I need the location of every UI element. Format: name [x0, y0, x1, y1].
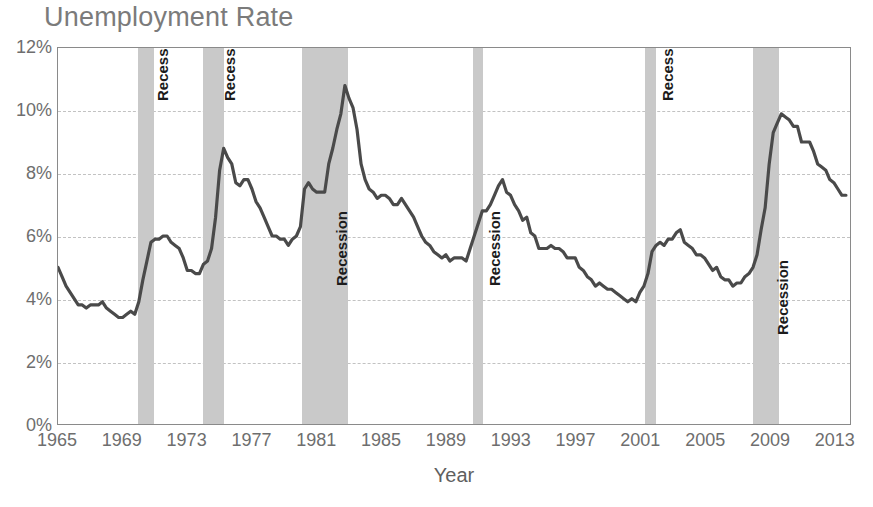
x-tick-label: 1969 [102, 430, 142, 451]
x-tick-label: 1997 [555, 430, 595, 451]
y-tick-label: 6% [0, 226, 52, 247]
plot-area: RecessionRecessionRecessionRecessionRece… [57, 47, 851, 425]
y-tick-label: 2% [0, 352, 52, 373]
unemployment-line-series [58, 48, 850, 424]
y-tick-label: 12% [0, 37, 52, 58]
x-tick-label: 1965 [37, 430, 77, 451]
y-tick-label: 8% [0, 163, 52, 184]
x-tick-label: 2009 [750, 430, 790, 451]
y-axis-tick-labels: 0%2%4%6%8%10%12% [0, 47, 52, 425]
x-tick-label: 2005 [685, 430, 725, 451]
x-tick-label: 2013 [815, 430, 855, 451]
x-tick-label: 1973 [167, 430, 207, 451]
x-axis-tick-labels: 1965196919731977198119851989199319972001… [57, 430, 851, 456]
chart-figure: Unemployment Rate 0%2%4%6%8%10%12% Reces… [0, 0, 873, 507]
x-tick-label: 1977 [231, 430, 271, 451]
x-tick-label: 1989 [426, 430, 466, 451]
x-tick-label: 1985 [361, 430, 401, 451]
chart-title: Unemployment Rate [44, 2, 294, 33]
y-tick-label: 10% [0, 100, 52, 121]
y-tick-label: 4% [0, 289, 52, 310]
series-polyline [58, 86, 846, 318]
x-tick-label: 2001 [620, 430, 660, 451]
x-tick-label: 1981 [296, 430, 336, 451]
x-axis-title: Year [57, 464, 851, 487]
x-tick-label: 1993 [491, 430, 531, 451]
